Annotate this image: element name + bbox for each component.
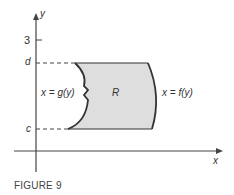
x-axis-arrow-icon xyxy=(216,148,223,154)
y-tick-label-3: 3 xyxy=(24,35,30,46)
level-label-d: d xyxy=(25,57,31,67)
left-curve-label: x = g(y) xyxy=(41,88,75,98)
right-curve-label: x = f(y) xyxy=(162,88,193,98)
region-label: R xyxy=(112,88,119,98)
y-axis-arrow-icon xyxy=(33,13,39,20)
figure-caption: FIGURE 9 xyxy=(14,180,62,191)
x-axis-label: x xyxy=(213,156,218,166)
level-label-c: c xyxy=(26,124,31,134)
y-axis-label: y xyxy=(40,9,45,19)
